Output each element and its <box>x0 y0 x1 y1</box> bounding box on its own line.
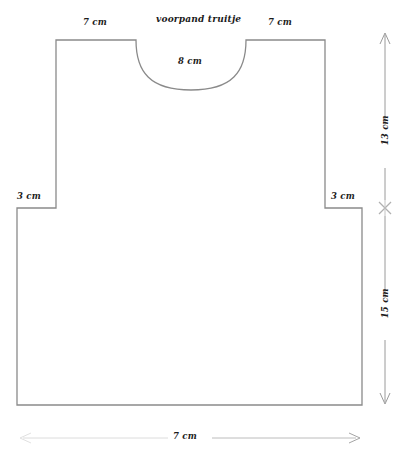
label-shoulder-left: 7 cm <box>83 18 107 27</box>
label-sleeve-right: 3 cm <box>331 192 355 201</box>
label-lower-height: 15 cm <box>381 290 390 318</box>
diagram-canvas: 7 cm voorpand truitje 7 cm 8 cm 3 cm 3 c… <box>0 0 409 460</box>
page-title: voorpand truitje <box>156 15 241 24</box>
label-neck-width: 8 cm <box>178 57 202 66</box>
label-upper-height: 13 cm <box>381 117 390 145</box>
label-body-width: 7 cm <box>173 432 197 441</box>
x-marker-icon <box>379 200 391 216</box>
garment-outline-path <box>17 40 362 405</box>
label-sleeve-left: 3 cm <box>17 192 41 201</box>
pattern-drawing <box>0 0 409 460</box>
label-shoulder-right: 7 cm <box>268 18 292 27</box>
